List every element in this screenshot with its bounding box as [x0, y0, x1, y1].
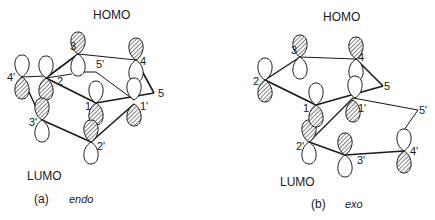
lumo-label: LUMO — [27, 169, 62, 183]
atom-label: 5' — [96, 58, 104, 70]
panel-name: endo — [69, 193, 93, 205]
atom-label: 3' — [357, 154, 365, 166]
atom-label: 1 — [303, 102, 309, 114]
atom-label: 2' — [296, 140, 304, 152]
orbital-lobes-exo — [258, 35, 411, 177]
atom-label: 2' — [97, 140, 105, 152]
atom-label: 5 — [158, 87, 164, 99]
panel-name: exo — [345, 198, 363, 210]
homo-label: HOMO — [93, 8, 130, 22]
lumo-label: LUMO — [280, 175, 315, 189]
atom-label: 5' — [419, 104, 427, 116]
atom-label: 1' — [358, 102, 366, 114]
atom-label: 3' — [29, 116, 37, 128]
atom-label: 3 — [70, 40, 76, 52]
atom-label: 5 — [384, 80, 390, 92]
panel-endo: 3 4 2 4' 5' 5 1 1' 3' 2' HOMO LUMO (a) e… — [7, 8, 164, 206]
atom-label: 4' — [410, 145, 418, 157]
atom-label: 4' — [7, 71, 15, 83]
atom-label: 3 — [291, 44, 297, 56]
panel-exo: 3 4 2 5 1 1' 5' 2' 3' 4' HOMO LUMO (b) e… — [253, 10, 427, 211]
homo-bonds — [265, 57, 383, 105]
homo-label: HOMO — [323, 10, 360, 24]
panel-letter: (b) — [311, 197, 326, 211]
atom-label: 2 — [57, 75, 63, 87]
atom-label: 1' — [140, 100, 148, 112]
orbital-diagram: 3 4 2 4' 5' 5 1 1' 3' 2' HOMO LUMO (a) e… — [0, 0, 435, 220]
atom-label: 4 — [140, 55, 146, 67]
panel-letter: (a) — [34, 192, 49, 206]
atom-label: 1 — [85, 100, 91, 112]
atom-label: 2 — [253, 75, 259, 87]
atom-label: 4 — [358, 51, 364, 63]
